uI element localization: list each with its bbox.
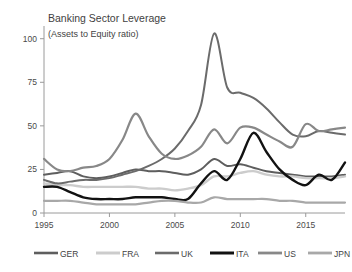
legend-label-jpn[interactable]: JPN (334, 249, 350, 259)
legend-label-uk[interactable]: UK (181, 249, 193, 259)
legend-label-ger[interactable]: GER (60, 249, 78, 259)
y-axis: 0255075100 (23, 26, 44, 218)
chart-subtitle: (Assets to Equity ratio) (48, 29, 139, 39)
x-axis-tick-label: 2010 (231, 220, 250, 230)
y-axis-tick-label: 75 (28, 77, 38, 87)
x-axis-tick-label: 2005 (165, 220, 184, 230)
x-axis-tick-label: 1995 (35, 220, 54, 230)
chart-title: Banking Sector Leverage (48, 12, 166, 24)
y-axis-tick-label: 0 (32, 208, 37, 218)
x-axis-tick-label: 2015 (296, 220, 315, 230)
series-line-uk (44, 33, 345, 183)
chart-title-group: Banking Sector Leverage (Assets to Equit… (48, 12, 166, 39)
legend-label-ita[interactable]: ITA (236, 249, 249, 259)
banking-sector-leverage-chart: Banking Sector Leverage (Assets to Equit… (0, 0, 352, 272)
y-axis-tick-label: 100 (23, 34, 37, 44)
legend-label-fra[interactable]: FRA (122, 249, 139, 259)
y-axis-tick-label: 25 (28, 164, 38, 174)
chart-legend: GERFRAUKITAUSJPN (34, 249, 350, 259)
x-axis: 19952000200520102015 (35, 213, 345, 230)
chart-figure: Banking Sector Leverage (Assets to Equit… (0, 0, 352, 272)
x-axis-tick-label: 2000 (100, 220, 119, 230)
series-lines-group (44, 33, 345, 204)
legend-label-us[interactable]: US (284, 249, 296, 259)
y-axis-tick-label: 50 (28, 121, 38, 131)
series-line-ger (44, 159, 345, 178)
